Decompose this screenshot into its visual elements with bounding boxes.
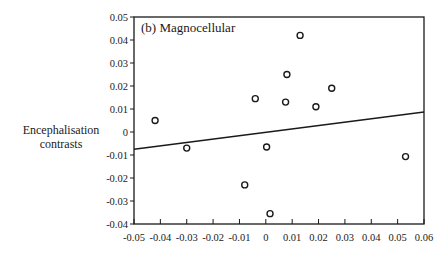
y-tick-label: 0.03 — [110, 58, 128, 69]
data-points — [152, 32, 408, 216]
data-point-marker — [403, 154, 409, 160]
y-tick-label: 0.05 — [110, 12, 128, 23]
x-tick-label: 0 — [263, 232, 268, 243]
regression-line — [134, 112, 424, 149]
data-point-marker — [297, 32, 303, 38]
y-tick-label: 0.02 — [110, 81, 128, 92]
x-tick-label: 0.03 — [336, 232, 354, 243]
regression-line-path — [134, 112, 424, 149]
x-tick-label: -0.03 — [176, 232, 198, 243]
x-tick-label: -0.05 — [123, 232, 145, 243]
y-tick-label: -0.03 — [106, 196, 128, 207]
y-tick-label: 0 — [123, 127, 128, 138]
y-tick-label: -0.02 — [106, 173, 128, 184]
data-point-marker — [329, 85, 335, 91]
x-tick-label: 0.05 — [388, 232, 406, 243]
axis-ticks: -0.05-0.04-0.03-0.02-0.0100.010.020.030.… — [106, 12, 433, 243]
data-point-marker — [242, 182, 248, 188]
data-point-marker — [264, 144, 270, 150]
x-tick-label: -0.04 — [149, 232, 172, 243]
y-tick-label: -0.01 — [106, 150, 128, 161]
data-point-marker — [283, 99, 289, 105]
data-point-marker — [252, 96, 258, 102]
y-tick-label: 0.04 — [110, 35, 129, 46]
plot-title: (b) Magnocellular — [141, 20, 236, 35]
data-point-marker — [284, 72, 290, 78]
x-tick-label: -0.02 — [202, 232, 224, 243]
data-point-marker — [313, 104, 319, 110]
plot-axes — [134, 17, 424, 224]
x-tick-label: 0.06 — [415, 232, 433, 243]
y-tick-label: 0.01 — [110, 104, 128, 115]
x-tick-label: 0.04 — [362, 232, 381, 243]
y-tick-label: -0.04 — [106, 219, 129, 230]
x-tick-label: 0.02 — [309, 232, 327, 243]
x-tick-label: 0.01 — [283, 232, 301, 243]
plot-frame — [134, 17, 424, 224]
data-point-marker — [184, 145, 190, 151]
data-point-marker — [267, 211, 273, 217]
data-point-marker — [152, 118, 158, 124]
scatter-chart: -0.05-0.04-0.03-0.02-0.0100.010.020.030.… — [0, 0, 437, 261]
x-tick-label: -0.01 — [229, 232, 251, 243]
